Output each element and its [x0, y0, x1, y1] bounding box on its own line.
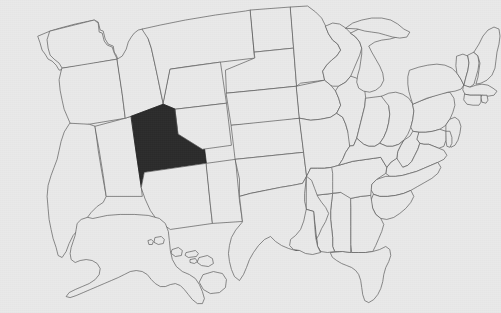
state-delaware[interactable]: [446, 131, 452, 147]
state-maine[interactable]: [474, 27, 500, 84]
state-oregon[interactable]: [59, 59, 125, 126]
state-wyoming[interactable]: [163, 62, 226, 109]
hawaii-island-maui[interactable]: [197, 256, 213, 267]
hawaii-island-molokai[interactable]: [185, 251, 198, 258]
hawaii-island-big-island[interactable]: [199, 272, 226, 294]
us-state-map-figure: [0, 0, 501, 313]
hawaii-island-kauai[interactable]: [154, 236, 164, 244]
hawaii-island-lanai[interactable]: [190, 259, 197, 264]
state-alabama[interactable]: [331, 191, 351, 252]
state-north-dakota[interactable]: [251, 7, 294, 52]
us-map-svg: [0, 0, 501, 313]
state-florida[interactable]: [331, 246, 391, 302]
state-rhode-island[interactable]: [481, 95, 488, 103]
state-connecticut[interactable]: [464, 94, 481, 105]
hawaii-island-oahu[interactable]: [171, 247, 182, 256]
